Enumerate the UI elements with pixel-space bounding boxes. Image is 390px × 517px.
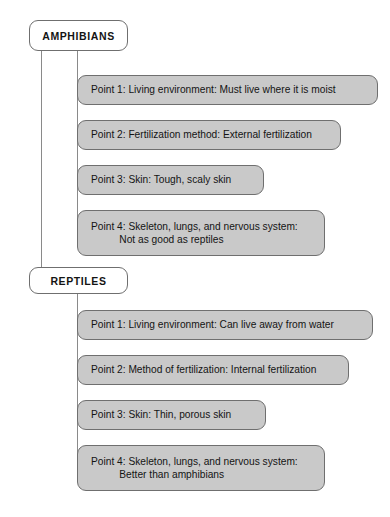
amphibians-point-1[interactable]: Point 1: Living environment: Must live w… [77,75,378,105]
amphibians-point-1-label: Point 1: Living environment: Must live w… [78,83,346,97]
amphibians-point-2[interactable]: Point 2: Fertilization method: External … [77,120,341,150]
amphibians-point-2-label: Point 2: Fertilization method: External … [78,128,322,142]
category-header-reptiles[interactable]: REPTILES [29,267,128,294]
category-header-amphibians[interactable]: AMPHIBIANS [29,20,128,51]
category-header-amphibians-label: AMPHIBIANS [42,30,115,42]
reptiles-point-1-label: Point 1: Living environment: Can live aw… [78,318,344,332]
comparison-diagram: AMPHIBIANS Point 1: Living environment: … [0,0,390,517]
reptiles-point-2[interactable]: Point 2: Method of fertilization: Intern… [77,355,349,385]
reptiles-point-4-label: Point 4: Skeleton, lungs, and nervous sy… [78,455,308,482]
amphibians-point-4[interactable]: Point 4: Skeleton, lungs, and nervous sy… [77,210,325,256]
reptiles-point-4[interactable]: Point 4: Skeleton, lungs, and nervous sy… [77,445,325,491]
reptiles-point-3[interactable]: Point 3: Skin: Thin, porous skin [77,400,266,430]
reptiles-point-3-label: Point 3: Skin: Thin, porous skin [78,408,241,422]
reptiles-point-1[interactable]: Point 1: Living environment: Can live aw… [77,310,373,340]
amphibians-point-4-label: Point 4: Skeleton, lungs, and nervous sy… [78,220,308,247]
amphibians-point-3-label: Point 3: Skin: Tough, scaly skin [78,173,241,187]
amphibians-point-3[interactable]: Point 3: Skin: Tough, scaly skin [77,165,264,195]
amphibians-to-reptiles-connector [41,51,42,279]
reptiles-point-2-label: Point 2: Method of fertilization: Intern… [78,363,326,377]
category-header-reptiles-label: REPTILES [50,275,106,287]
